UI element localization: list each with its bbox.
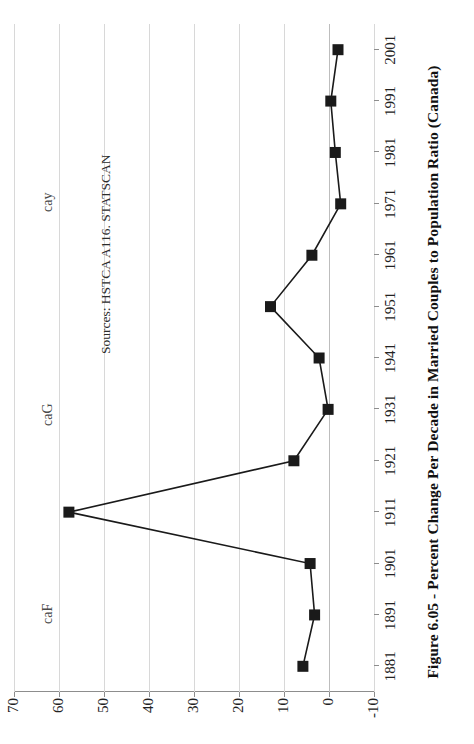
series-line bbox=[69, 50, 341, 667]
figure-container: 706050403020100-10 188118911901191119211… bbox=[0, 0, 474, 744]
series-markers bbox=[63, 44, 346, 672]
chart-plot-area: 706050403020100-10 188118911901191119211… bbox=[0, 0, 404, 744]
data-point-marker bbox=[265, 301, 276, 312]
data-point-marker bbox=[333, 44, 344, 55]
figure-caption: Figure 6.05 - Percent Change Per Decade … bbox=[424, 0, 442, 744]
data-series-svg bbox=[0, 0, 404, 744]
data-point-marker bbox=[297, 661, 308, 672]
watermark-cag: caG bbox=[40, 403, 56, 426]
data-point-marker bbox=[288, 455, 299, 466]
data-point-marker bbox=[309, 609, 320, 620]
watermark-caf: caF bbox=[40, 604, 56, 624]
source-note: Sources: HSTCA A116. STATSCAN bbox=[98, 155, 114, 354]
data-point-marker bbox=[335, 198, 346, 209]
data-point-marker bbox=[306, 250, 317, 261]
data-point-marker bbox=[323, 404, 334, 415]
data-point-marker bbox=[330, 147, 341, 158]
data-point-marker bbox=[325, 96, 336, 107]
data-point-marker bbox=[314, 353, 325, 364]
data-point-marker bbox=[63, 507, 74, 518]
data-point-marker bbox=[305, 558, 316, 569]
watermark-cay: cay bbox=[40, 193, 56, 212]
